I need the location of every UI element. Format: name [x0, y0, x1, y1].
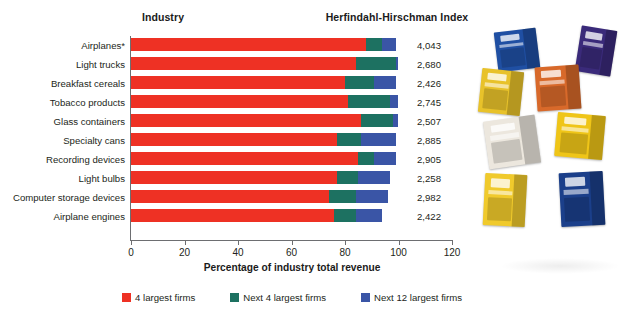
box-top-panel — [541, 70, 562, 78]
bar-segment-1 — [131, 171, 337, 184]
bar-segment-1 — [131, 57, 356, 70]
bar-segment-1 — [131, 152, 358, 165]
bar-row[interactable] — [131, 114, 452, 127]
stacked-bar[interactable] — [131, 114, 399, 127]
bar-segment-2 — [361, 114, 393, 127]
bar-row[interactable] — [131, 133, 452, 146]
hhi-value: 2,426 — [417, 78, 461, 89]
category-label: Light trucks — [0, 59, 125, 70]
hhi-value: 2,745 — [417, 97, 461, 108]
box-side-face — [600, 29, 618, 76]
bar-row[interactable] — [131, 57, 452, 70]
chart-legend: 4 largest firmsNext 4 largest firmsNext … — [122, 292, 462, 303]
hhi-value: 2,507 — [417, 116, 461, 127]
category-label: Glass containers — [0, 116, 125, 127]
box-brand-band — [485, 82, 509, 88]
legend-label: 4 largest firms — [135, 292, 195, 303]
x-tick-120 — [452, 240, 453, 245]
box-side-face — [588, 115, 606, 160]
category-label: Light bulbs — [0, 173, 125, 184]
x-tick-label-40: 40 — [218, 247, 258, 258]
special-k-blue-box — [559, 171, 606, 227]
corn-flakes-white-box — [483, 115, 541, 170]
category-label: Airplane engines — [0, 211, 125, 222]
stacked-bar[interactable] — [131, 38, 396, 51]
legend-item-2[interactable]: Next 4 largest firms — [230, 292, 326, 303]
bar-segment-1 — [131, 190, 329, 203]
bar-row[interactable] — [131, 171, 452, 184]
stacked-bar[interactable] — [131, 95, 399, 108]
box-side-face — [512, 174, 527, 227]
bar-segment-1 — [131, 133, 337, 146]
category-label: Airplanes* — [0, 40, 125, 51]
bar-row[interactable] — [131, 190, 452, 203]
category-label: Breakfast cereals — [0, 78, 125, 89]
category-label: Specialty cans — [0, 135, 125, 146]
bar-row[interactable] — [131, 95, 452, 108]
rice-krispies-blue-box — [494, 28, 541, 73]
breakfast-cereal-boxes-photograph — [474, 22, 638, 276]
bar-segment-3 — [374, 76, 395, 89]
legend-swatch-icon — [122, 293, 131, 302]
bar-segment-3 — [396, 57, 399, 70]
box-top-panel — [491, 122, 516, 133]
bar-row[interactable] — [131, 76, 452, 89]
box-top-panel — [565, 177, 586, 187]
hhi-value: 2,422 — [417, 211, 461, 222]
x-tick-label-20: 20 — [165, 247, 205, 258]
x-tick-label-60: 60 — [272, 247, 312, 258]
bar-segment-3 — [356, 209, 383, 222]
x-tick-label-120: 120 — [432, 247, 472, 258]
bar-segment-2 — [337, 133, 361, 146]
category-label: Recording devices — [0, 154, 125, 165]
bar-segment-3 — [390, 95, 398, 108]
bar-segment-2 — [329, 190, 356, 203]
stacked-bar[interactable] — [131, 209, 382, 222]
bar-segment-2 — [358, 152, 374, 165]
chart-figure: Industry Herfindahl-Hirschman Index 0204… — [0, 0, 641, 320]
bar-segment-3 — [361, 133, 396, 146]
bar-row[interactable] — [131, 38, 452, 51]
x-tick-80 — [345, 240, 346, 245]
legend-item-1[interactable]: 4 largest firms — [122, 292, 195, 303]
legend-item-3[interactable]: Next 12 largest firms — [361, 292, 462, 303]
legend-swatch-icon — [361, 293, 370, 302]
column-header-hhi: Herfindahl-Hirschman Index — [312, 11, 482, 23]
box-top-panel — [500, 34, 520, 43]
bar-segment-3 — [358, 171, 390, 184]
x-tick-60 — [292, 240, 293, 245]
category-label: Tobacco products — [0, 97, 125, 108]
stacked-bar[interactable] — [131, 133, 396, 146]
x-tick-label-80: 80 — [325, 247, 365, 258]
bar-segment-2 — [366, 38, 382, 51]
bar-segment-2 — [356, 57, 396, 70]
stacked-bar[interactable] — [131, 57, 399, 70]
box-artwork — [540, 86, 566, 107]
box-brand-band — [561, 126, 588, 132]
photo-shadow — [500, 258, 620, 274]
bar-segment-3 — [374, 152, 395, 165]
bar-row[interactable] — [131, 209, 452, 222]
box-side-face — [589, 171, 605, 226]
bar-segment-1 — [131, 114, 361, 127]
hhi-value: 2,982 — [417, 192, 461, 203]
rice-krispies-orange-box — [535, 65, 582, 112]
box-artwork — [579, 47, 602, 70]
bar-row[interactable] — [131, 152, 452, 165]
stacked-bar[interactable] — [131, 152, 396, 165]
box-artwork — [491, 139, 523, 164]
box-artwork — [487, 197, 512, 221]
hhi-value: 2,680 — [417, 59, 461, 70]
stacked-bar[interactable] — [131, 76, 396, 89]
box-top-panel — [491, 178, 511, 187]
box-side-face — [507, 71, 524, 116]
bar-segment-2 — [334, 209, 355, 222]
legend-label: Next 12 largest firms — [374, 292, 462, 303]
coco-pops-yellow-box-2 — [483, 173, 528, 227]
frosties-purple-box — [575, 25, 618, 76]
column-header-industry: Industry — [118, 11, 208, 23]
box-artwork — [500, 48, 526, 68]
stacked-bar[interactable] — [131, 190, 388, 203]
box-brand-band — [540, 80, 565, 86]
stacked-bar[interactable] — [131, 171, 390, 184]
